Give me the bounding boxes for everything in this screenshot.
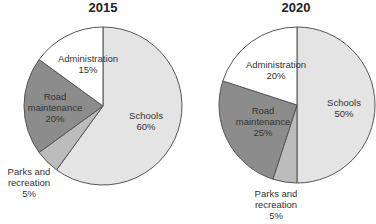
label-2020-schools: Schools 50% — [316, 97, 372, 119]
label-2015-parks-recreation: Parks and recreation 5% — [0, 166, 58, 199]
label-2015-administration: Administration 15% — [46, 53, 130, 75]
chart-title-2020: 2020 — [256, 0, 336, 15]
label-2020-administration: Administration 20% — [234, 59, 318, 81]
label-2020-road-maintenance: Road maintenance 25% — [225, 105, 301, 138]
label-2020-parks-recreation: Parks and recreation 5% — [246, 188, 306, 221]
label-2015-schools: Schools 60% — [116, 110, 176, 132]
label-2015-road-maintenance: Road maintenance 20% — [22, 91, 88, 124]
